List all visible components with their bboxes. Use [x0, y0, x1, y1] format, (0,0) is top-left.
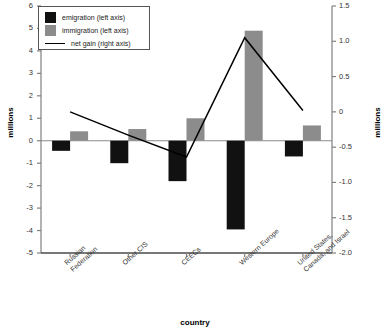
y-tick-right-1: 1.0 [339, 36, 361, 45]
y-tick-right-4: -0.5 [339, 142, 361, 151]
legend-item-immigration: immigration (left axis) [45, 24, 129, 36]
y-tick-left-5: 1 [17, 113, 33, 122]
y-tick-right-2: 0.5 [339, 72, 361, 81]
y-tick-left-7: -1 [17, 158, 33, 167]
legend-swatch-emigration [45, 12, 56, 23]
legend: emigration (left axis) immigration (left… [38, 6, 150, 50]
y-tick-left-0: 6 [17, 1, 33, 10]
y-tick-left-9: -3 [17, 203, 33, 212]
legend-line-net-gain [45, 43, 65, 44]
y-tick-left-1: 5 [17, 23, 33, 32]
y-tick-right-7: -2.0 [339, 248, 361, 257]
y-tick-right-3: 0 [339, 107, 361, 116]
y-tick-left-4: 2 [17, 91, 33, 100]
legend-label-net-gain: net gain (right axis) [71, 40, 131, 47]
y-tick-left-6: 0 [17, 136, 33, 145]
y-tick-left-10: -4 [17, 226, 33, 235]
y-tick-left-2: 4 [17, 46, 33, 55]
y-tick-left-11: -5 [17, 248, 33, 257]
y-tick-right-5: -1.0 [339, 177, 361, 186]
y-tick-right-0: 1.5 [339, 1, 361, 10]
y-tick-left-3: 3 [17, 68, 33, 77]
legend-label-emigration: emigration (left axis) [62, 14, 125, 21]
y-tick-right-6: -1.5 [339, 213, 361, 222]
y-tick-left-8: -2 [17, 181, 33, 190]
legend-swatch-immigration [45, 25, 56, 36]
migration-bar-chart: millions millions country 6543210-1-2-3-… [0, 0, 387, 333]
legend-label-immigration: immigration (left axis) [62, 27, 129, 34]
legend-item-emigration: emigration (left axis) [45, 11, 125, 23]
legend-item-net-gain: net gain (right axis) [45, 37, 131, 49]
